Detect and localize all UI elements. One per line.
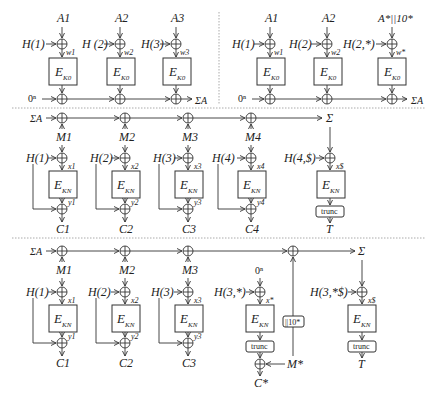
svg-text:y2: y2 xyxy=(130,332,139,341)
svg-text:E: E xyxy=(242,177,251,192)
svg-text:E: E xyxy=(250,311,259,326)
encryption-partial-block: ΣA Σ M1 H(1) x1 E KN y1 C1 xyxy=(25,244,376,390)
svg-text:C*: C* xyxy=(254,376,268,390)
svg-text:Σ: Σ xyxy=(357,244,365,258)
svg-text:y3: y3 xyxy=(193,332,202,341)
input-a3: A3 xyxy=(170,11,184,25)
associated-data-hash-full: A1 H(1) w1 E K0 A2 H (2) w2 E K0 xyxy=(21,11,208,106)
svg-text:E: E xyxy=(321,177,330,192)
xor-icon xyxy=(115,94,125,104)
svg-text:E: E xyxy=(352,311,361,326)
svg-text:K0: K0 xyxy=(391,74,401,82)
svg-text:H(2): H(2) xyxy=(87,285,111,299)
svg-text:KN: KN xyxy=(360,321,371,329)
svg-text:KN: KN xyxy=(250,187,261,195)
svg-text:K0: K0 xyxy=(176,74,186,82)
svg-text:M2: M2 xyxy=(118,263,135,277)
associated-data-hash-partial: A1 H(1) w1 E K0 A2 H(2) w2 E K0 xyxy=(231,11,424,106)
svg-text:H(2,*): H(2,*) xyxy=(342,37,375,51)
input-a2: A2 xyxy=(114,11,128,25)
svg-text:H(4): H(4) xyxy=(211,151,235,165)
svg-text:x2: x2 xyxy=(130,296,139,305)
svg-text:M*: M* xyxy=(286,357,303,371)
xor-icon xyxy=(265,94,275,104)
input-a1: A1 xyxy=(56,11,70,25)
svg-text:x1: x1 xyxy=(67,162,76,171)
svg-text:E: E xyxy=(179,177,188,192)
svg-text:w1: w1 xyxy=(274,48,283,57)
svg-text:KN: KN xyxy=(187,321,198,329)
wire-w1: w1 xyxy=(66,48,75,57)
svg-text:y4: y4 xyxy=(256,198,265,207)
enc-block-4: M4 H(4) x4 E KN y4 C4 xyxy=(211,113,266,236)
svg-text:trunc: trunc xyxy=(321,207,338,216)
svg-text:H(1): H(1) xyxy=(25,285,49,299)
svg-text:KN: KN xyxy=(124,187,135,195)
svg-text:H(1): H(1) xyxy=(25,151,49,165)
enc-block-3: M3 H(3) x3 E KN y3 C3 xyxy=(152,113,203,236)
svg-text:C1: C1 xyxy=(56,356,70,370)
tag-output: T xyxy=(326,222,334,236)
ad-block-1: A1 H(1) w1 E K0 xyxy=(21,11,77,104)
svg-text:trunc: trunc xyxy=(251,342,268,351)
svg-text:M1: M1 xyxy=(55,130,72,144)
ad-block-3: A3 H(3) w3 E K0 xyxy=(140,11,191,104)
svg-text:KN: KN xyxy=(329,187,340,195)
svg-text:w3: w3 xyxy=(180,48,189,57)
xor-icon xyxy=(322,94,332,104)
svg-text:KN: KN xyxy=(61,321,72,329)
svg-text:E: E xyxy=(168,64,177,79)
svg-text:x4: x4 xyxy=(256,162,265,171)
svg-text:H(3): H(3) xyxy=(150,285,174,299)
svg-text:y1: y1 xyxy=(67,332,76,341)
svg-text:H(4,$): H(4,$) xyxy=(283,151,316,165)
svg-text:x3: x3 xyxy=(193,296,202,305)
partial-block: 0ⁿ H(3,*) x* E KN trunc M* ||10* C* xyxy=(213,257,304,390)
svg-text:M4: M4 xyxy=(244,130,261,144)
svg-text:H(2): H(2) xyxy=(288,37,312,51)
svg-text:H(3,*): H(3,*) xyxy=(213,285,246,299)
svg-text:x3: x3 xyxy=(193,162,202,171)
svg-text:A1: A1 xyxy=(264,11,278,25)
encryption-full-blocks: ΣA Σ M1 H(1) x1 E KN y1 C1 xyxy=(25,111,345,236)
svg-text:C2: C2 xyxy=(119,222,133,236)
svg-text:KN: KN xyxy=(258,321,269,329)
sigma-a-output: ΣA xyxy=(194,95,208,106)
svg-text:H(3,*$): H(3,*$) xyxy=(309,285,348,299)
ad-block-2: A2 H (2) w2 E K0 xyxy=(81,11,135,104)
svg-text:K0: K0 xyxy=(62,74,72,82)
svg-text:w2: w2 xyxy=(331,48,340,57)
svg-text:0ⁿ: 0ⁿ xyxy=(255,265,263,276)
enc-block-1: M1 H(1) x1 E KN y1 C1 xyxy=(25,113,77,236)
enc2-block-3: M3 H(3) x3 E KN y3 C3 xyxy=(150,246,203,370)
svg-text:w*: w* xyxy=(396,48,405,57)
tag-block: H(4,$) x$ E KN trunc T xyxy=(283,127,345,236)
svg-text:||10*: ||10* xyxy=(285,318,300,327)
svg-text:K0: K0 xyxy=(120,74,130,82)
svg-text:K0: K0 xyxy=(270,74,280,82)
svg-text:E: E xyxy=(179,311,188,326)
svg-text:E: E xyxy=(383,64,392,79)
svg-text:M2: M2 xyxy=(118,130,135,144)
svg-text:w2: w2 xyxy=(124,48,133,57)
svg-text:M3: M3 xyxy=(181,130,198,144)
enc-block-2: M2 H(2) x2 E KN y2 C2 xyxy=(89,113,140,236)
svg-text:C2: C2 xyxy=(119,356,133,370)
svg-text:E: E xyxy=(262,64,271,79)
svg-text:A2: A2 xyxy=(321,11,335,25)
svg-text:E: E xyxy=(112,64,121,79)
svg-text:trunc: trunc xyxy=(353,342,370,351)
svg-text:E: E xyxy=(319,64,328,79)
tweakable-blockcipher-mode-diagram: A1 H(1) w1 E K0 A2 H (2) w2 E K0 xyxy=(0,0,440,401)
enc2-block-1: M1 H(1) x1 E KN y1 C1 xyxy=(25,246,77,370)
svg-text:M3: M3 xyxy=(181,263,198,277)
svg-text:x1: x1 xyxy=(67,296,76,305)
xor-icon xyxy=(57,94,67,104)
svg-text:C3: C3 xyxy=(182,356,196,370)
xor-icon xyxy=(171,94,181,104)
svg-text:H(3): H(3) xyxy=(152,151,176,165)
tweak-h2: H (2) xyxy=(81,37,108,51)
svg-text:y2: y2 xyxy=(130,198,139,207)
svg-text:A*||10*: A*||10* xyxy=(377,12,413,24)
svg-text:x*: x* xyxy=(265,296,274,305)
